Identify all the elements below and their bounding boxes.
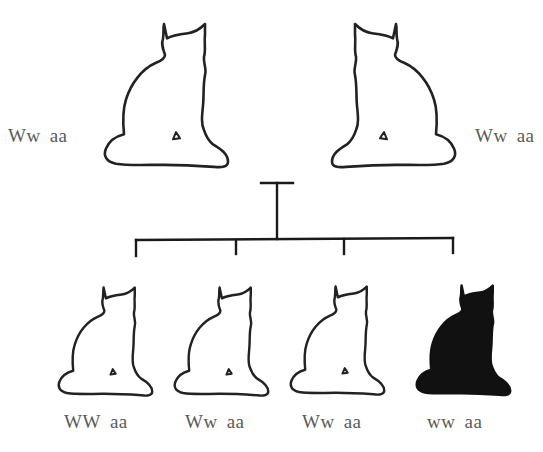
child-4-cat bbox=[417, 286, 511, 395]
sibship-line bbox=[136, 238, 453, 240]
child-3-a-locus: aa bbox=[344, 411, 362, 432]
pedigree-lines bbox=[136, 183, 453, 256]
child-1-genotype: WWaa bbox=[64, 412, 128, 431]
parent-right-w-locus: Ww bbox=[475, 125, 508, 146]
child-2-cat bbox=[175, 288, 269, 396]
child-3-genotype: Wwaa bbox=[302, 412, 362, 431]
parent-left-cat bbox=[105, 24, 228, 167]
child-2-a-locus: aa bbox=[227, 411, 245, 432]
parent-right-a-locus: aa bbox=[517, 125, 535, 146]
parent-left-w-locus: Ww bbox=[8, 125, 41, 146]
parent-left-a-locus: aa bbox=[50, 125, 68, 146]
parent-left-genotype: Wwaa bbox=[8, 126, 68, 145]
parent-right-genotype: Wwaa bbox=[475, 126, 535, 145]
pedigree-diagram: Wwaa Wwaa WWaa Wwaa Wwaa wwaa bbox=[0, 0, 543, 452]
child-1-w-locus: WW bbox=[64, 411, 101, 432]
child-1-a-locus: aa bbox=[110, 411, 128, 432]
child-4-a-locus: aa bbox=[464, 411, 482, 432]
child-4-genotype: wwaa bbox=[427, 412, 482, 431]
child-1-cat bbox=[59, 288, 153, 396]
child-4-w-locus: ww bbox=[427, 411, 455, 432]
child-3-cat bbox=[291, 287, 385, 395]
child-2-w-locus: Ww bbox=[185, 411, 218, 432]
parent-right-cat bbox=[332, 24, 455, 167]
child-3-w-locus: Ww bbox=[302, 411, 335, 432]
child-2-genotype: Wwaa bbox=[185, 412, 245, 431]
pedigree-graphic bbox=[0, 0, 543, 452]
